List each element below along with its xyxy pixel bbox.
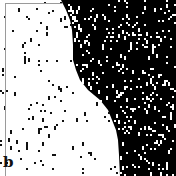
binary-pixel-field	[0, 0, 176, 176]
panel-label: b	[3, 155, 14, 170]
binary-field-figure: b	[0, 0, 176, 176]
